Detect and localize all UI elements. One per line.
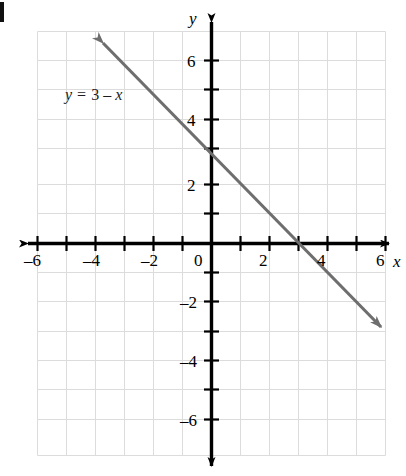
equation-label-equals: = [77, 86, 86, 103]
y-tick-label-2: 2 [187, 177, 196, 194]
equation-label-three: 3 [91, 86, 99, 103]
y-tick-label-neg6: –6 [180, 412, 197, 429]
x-axis [28, 236, 389, 251]
graph-figure: y x –6 –4 –2 0 2 4 6 6 4 2 –2 –4 –6 y=3–… [0, 0, 406, 476]
x-tick-label-0: 0 [194, 252, 203, 269]
x-tick-label-neg6: –6 [24, 252, 41, 269]
x-axis-name: x [393, 253, 401, 270]
y-tick-label-4: 4 [187, 112, 196, 129]
x-tick-label-neg2: –2 [141, 252, 158, 269]
equation-label-x: x [115, 86, 122, 103]
y-axis-name: y [189, 10, 197, 27]
y-tick-label-neg2: –2 [180, 294, 197, 311]
equation-label: y=3–x [65, 87, 122, 103]
x-tick-label-6: 6 [376, 252, 385, 269]
x-tick-label-4: 4 [317, 252, 326, 269]
equation-label-minus: – [103, 86, 111, 103]
coordinate-plane-svg [0, 0, 406, 476]
y-tick-label-6: 6 [187, 53, 196, 70]
y-tick-label-neg4: –4 [180, 353, 197, 370]
equation-label-y: y [65, 86, 72, 103]
x-tick-label-2: 2 [259, 252, 268, 269]
x-tick-label-neg4: –4 [83, 252, 100, 269]
